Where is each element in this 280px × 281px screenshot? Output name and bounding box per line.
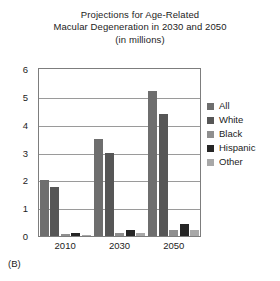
panel-label: (B) (8, 258, 21, 269)
legend-label: All (219, 101, 230, 111)
x-axis-tick-2030: 2030 (109, 240, 130, 251)
y-axis-tick-5: 5 (23, 91, 28, 102)
gridline-3 (39, 154, 200, 155)
legend-label: Hispanic (219, 143, 255, 153)
gridline-4 (39, 126, 200, 127)
legend-item-white: White (207, 113, 277, 127)
x-axis-tick-2050: 2050 (163, 240, 184, 251)
legend-swatch-black-icon (207, 131, 214, 138)
legend-swatch-all-icon (207, 103, 214, 110)
chart-title: Projections for Age-Related Macular Dege… (0, 9, 280, 46)
legend-item-hispanic: Hispanic (207, 141, 277, 155)
legend-label: Black (219, 129, 242, 139)
gridline-1 (39, 209, 200, 210)
legend-swatch-hispanic-icon (207, 145, 214, 152)
y-axis: 0123456 (0, 68, 34, 237)
chart-figure: Projections for Age-Related Macular Dege… (0, 0, 280, 281)
plot-area (38, 68, 201, 237)
gridlines (39, 69, 200, 236)
x-axis: 201020302050 (38, 240, 201, 254)
chart-title-line-3: (in millions) (0, 34, 280, 46)
legend-swatch-other-icon (207, 159, 214, 166)
chart-title-line-1: Projections for Age-Related (0, 9, 280, 21)
legend-label: Other (219, 157, 243, 167)
legend-label: White (219, 115, 243, 125)
y-axis-tick-0: 0 (23, 231, 28, 242)
y-axis-tick-4: 4 (23, 119, 28, 130)
chart-legend: AllWhiteBlackHispanicOther (207, 99, 277, 169)
x-axis-tick-2010: 2010 (55, 240, 76, 251)
chart-title-line-2: Macular Degeneration in 2030 and 2050 (0, 21, 280, 33)
y-axis-tick-2: 2 (23, 175, 28, 186)
y-axis-tick-6: 6 (23, 64, 28, 75)
y-axis-tick-1: 1 (23, 203, 28, 214)
y-axis-tick-3: 3 (23, 147, 28, 158)
legend-item-other: Other (207, 155, 277, 169)
legend-item-black: Black (207, 127, 277, 141)
gridline-2 (39, 181, 200, 182)
legend-swatch-white-icon (207, 117, 214, 124)
legend-item-all: All (207, 99, 277, 113)
gridline-5 (39, 98, 200, 99)
